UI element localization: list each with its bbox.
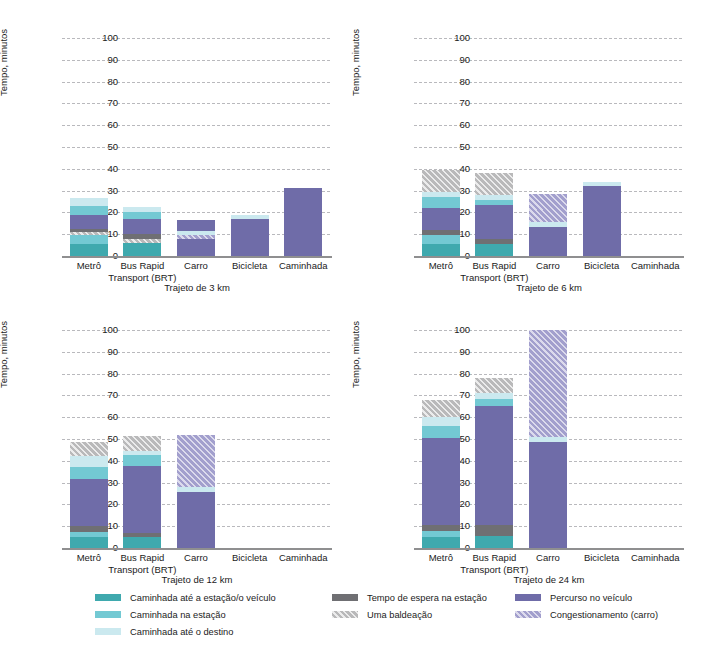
bar-segment-transfer bbox=[475, 378, 513, 393]
y-tick-label: 100 bbox=[432, 324, 470, 335]
x-tick-label-4: Caminhada bbox=[618, 552, 692, 564]
bar-segment-walk-in-station bbox=[422, 235, 460, 244]
x-axis-line bbox=[62, 256, 332, 258]
chart-panel-3: Tempo, minutos0102030405060708090100Metr… bbox=[352, 300, 704, 590]
bar-caminhada bbox=[284, 188, 322, 256]
bar-segment-vehicle bbox=[70, 215, 108, 229]
bar-segment-transfer bbox=[123, 239, 161, 243]
x-tick-label-4: Caminhada bbox=[618, 260, 692, 272]
bar-segment-wait bbox=[475, 239, 513, 244]
bar-segment-walk-dest bbox=[529, 222, 567, 226]
bar-segment-walk-dest bbox=[475, 195, 513, 200]
panel-caption: Trajeto de 12 km bbox=[62, 574, 332, 585]
bar-segment-walk-station bbox=[422, 537, 460, 548]
y-tick-label: 30 bbox=[80, 185, 118, 196]
y-axis-title: Tempo, minutos bbox=[0, 321, 9, 388]
y-tick-label: 100 bbox=[432, 32, 470, 43]
chart-legend: Caminhada até a estação/o veículoCaminha… bbox=[95, 590, 675, 636]
y-tick-label: 90 bbox=[432, 54, 470, 65]
legend-item[interactable]: Caminhada até a estação/o veículo bbox=[95, 590, 285, 605]
y-tick-label: 60 bbox=[80, 411, 118, 422]
chart-panel-0: Tempo, minutos0102030405060708090100Metr… bbox=[0, 8, 352, 298]
bar-segment-wait bbox=[70, 526, 108, 531]
panel-caption: Trajeto de 3 km bbox=[62, 282, 332, 293]
bar-segment-vehicle bbox=[177, 492, 215, 548]
bar-carro bbox=[177, 435, 215, 548]
bar-segment-walk-dest bbox=[422, 192, 460, 197]
bar-segment-vehicle bbox=[422, 208, 460, 230]
y-tick-label: 70 bbox=[80, 389, 118, 400]
legend-item[interactable]: Uma baldeação bbox=[332, 607, 492, 622]
bar-bus-rapid-transport-brt bbox=[475, 378, 513, 548]
bar-segment-vehicle bbox=[123, 219, 161, 234]
bar-bus-rapid-transport-brt bbox=[123, 436, 161, 548]
bar-segment-walk-dest bbox=[422, 417, 460, 426]
bar-segment-walk-dest bbox=[70, 198, 108, 206]
bar-segment-transfer bbox=[123, 436, 161, 451]
x-tick-label-4: Caminhada bbox=[266, 552, 340, 564]
bar-segment-wait bbox=[123, 234, 161, 238]
bar-segment-walk-dest bbox=[70, 456, 108, 467]
y-tick-label: 90 bbox=[80, 346, 118, 357]
bar-segment-walk-in-station bbox=[70, 467, 108, 479]
stacked-bar-chart-figure: Tempo, minutos0102030405060708090100Metr… bbox=[0, 0, 704, 654]
bar-segment-wait bbox=[70, 229, 108, 232]
bar-segment-walk-in-station bbox=[123, 455, 161, 466]
bar-segment-walk-in-station bbox=[422, 531, 460, 538]
legend-item[interactable]: Percurso no veículo bbox=[515, 590, 695, 605]
y-tick-label: 70 bbox=[80, 97, 118, 108]
legend-label: Caminhada até a estação/o veículo bbox=[130, 593, 276, 603]
bar-segment-transfer bbox=[422, 400, 460, 417]
bar-carro bbox=[529, 330, 567, 548]
bar-carro bbox=[529, 194, 567, 256]
bar-segment-walk-station bbox=[422, 244, 460, 256]
bar-segment-walk-dest bbox=[231, 215, 269, 219]
legend-item[interactable]: Congestionamento (carro) bbox=[515, 607, 695, 622]
x-axis-line bbox=[414, 256, 684, 258]
bar-segment-vehicle bbox=[70, 479, 108, 526]
bar-metr bbox=[422, 170, 460, 256]
bar-segment-walk-dest bbox=[123, 207, 161, 212]
bar-segment-congestion bbox=[529, 194, 567, 210]
chart-panel-2: Tempo, minutos0102030405060708090100Metr… bbox=[0, 300, 352, 590]
bar-segment-transfer bbox=[70, 232, 108, 235]
bar-segment-congestion bbox=[177, 435, 215, 487]
bar-metr bbox=[422, 400, 460, 548]
bar-segment-walk-in-station bbox=[422, 426, 460, 438]
bar-segment-walk-dest bbox=[177, 231, 215, 235]
legend-label: Tempo de espera na estação bbox=[367, 593, 487, 603]
bar-segment-walk-dest bbox=[529, 437, 567, 442]
bar-segment-walk-station bbox=[475, 536, 513, 548]
legend-item[interactable]: Caminhada até o destino bbox=[95, 624, 285, 639]
bar-segment-congestion bbox=[529, 210, 567, 222]
y-tick-label: 50 bbox=[80, 141, 118, 152]
y-tick-label: 80 bbox=[432, 368, 470, 379]
plot-area: 0102030405060708090100 bbox=[62, 38, 330, 256]
y-tick-label: 70 bbox=[432, 97, 470, 108]
bar-segment-transfer bbox=[70, 442, 108, 456]
bar-segment-vehicle bbox=[529, 442, 567, 548]
y-tick-label: 90 bbox=[432, 346, 470, 357]
bar-segment-wait bbox=[422, 230, 460, 235]
legend-swatch-icon bbox=[515, 594, 541, 601]
bar-segment-walk-dest bbox=[583, 182, 621, 186]
bar-segment-vehicle bbox=[422, 438, 460, 525]
legend-item[interactable]: Tempo de espera na estação bbox=[332, 590, 492, 605]
bar-segment-walk-dest bbox=[177, 487, 215, 492]
bar-segment-walk-in-station bbox=[475, 399, 513, 407]
bar-metr bbox=[70, 198, 108, 256]
plot-area: 0102030405060708090100 bbox=[414, 330, 682, 548]
legend-column-1: Tempo de espera na estaçãoUma baldeação bbox=[332, 590, 492, 624]
bar-segment-vehicle bbox=[231, 219, 269, 256]
bar-segment-congestion bbox=[529, 330, 567, 437]
legend-item[interactable]: Caminhada na estação bbox=[95, 607, 285, 622]
bar-segment-congestion bbox=[177, 235, 215, 238]
y-axis-title: Tempo, minutos bbox=[350, 321, 361, 388]
bar-segment-walk-station bbox=[475, 244, 513, 256]
bar-metr bbox=[70, 442, 108, 548]
legend-swatch-icon bbox=[95, 611, 121, 618]
bar-segment-vehicle bbox=[177, 239, 215, 256]
legend-swatch-icon bbox=[515, 611, 541, 618]
bar-segment-wait bbox=[475, 525, 513, 536]
bar-segment-walk-station bbox=[123, 243, 161, 256]
